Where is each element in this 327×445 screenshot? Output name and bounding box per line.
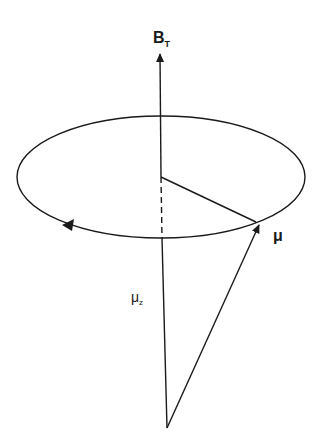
radius-line xyxy=(161,177,256,222)
precession-diagram: BT μ μz xyxy=(0,0,327,445)
mu-z-axis xyxy=(162,238,167,428)
field-axis-hidden xyxy=(161,177,162,238)
field-axis-upper xyxy=(160,54,161,177)
field-label: BT xyxy=(153,29,171,49)
moment-z-label: μz xyxy=(131,289,143,307)
moment-vector xyxy=(167,225,259,428)
moment-label: μ xyxy=(273,227,283,244)
precession-direction-arrow-icon xyxy=(62,219,74,231)
